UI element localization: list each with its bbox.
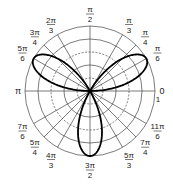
angle-label-a330: 11π6: [151, 122, 165, 141]
angle-label-a240: 4π3: [46, 151, 56, 170]
svg-text:6: 6: [20, 54, 25, 63]
svg-text:11π: 11π: [151, 122, 165, 131]
angle-label-a0: 0: [159, 86, 164, 96]
svg-text:2: 2: [88, 15, 93, 24]
polar-rose-diagram: 0π6π4π3π22π33π45π6π7π65π44π33π25π37π411π…: [0, 0, 173, 186]
grid-spoke: [90, 45, 136, 91]
angle-label-a30: π6: [154, 44, 162, 63]
svg-text:4: 4: [33, 38, 38, 47]
angle-label-a45: π4: [141, 28, 149, 47]
svg-text:4π: 4π: [46, 151, 56, 160]
svg-text:5π: 5π: [18, 44, 28, 53]
svg-text:4: 4: [143, 148, 148, 157]
angle-label-a150: 5π6: [18, 44, 28, 63]
angle-label-a210: 7π6: [18, 122, 28, 141]
svg-text:7π: 7π: [140, 138, 150, 147]
svg-text:6: 6: [20, 132, 25, 141]
svg-text:π: π: [87, 5, 93, 14]
grid-spoke: [44, 91, 90, 137]
svg-text:π: π: [155, 44, 161, 53]
angle-label-a60: π3: [125, 16, 133, 35]
angle-label-a315: 7π4: [140, 138, 150, 157]
angle-label-a90: π2: [86, 5, 94, 24]
grid-spoke: [34, 91, 90, 124]
svg-text:2π: 2π: [46, 16, 56, 25]
grid-spoke: [90, 91, 136, 137]
svg-text:π: π: [126, 16, 132, 25]
svg-text:2: 2: [88, 171, 93, 180]
radial-label: 1: [156, 95, 161, 104]
svg-text:4: 4: [33, 148, 38, 157]
angle-label-a225: 5π4: [30, 138, 40, 157]
angle-label-a180: π: [15, 86, 21, 96]
svg-text:π: π: [142, 28, 148, 37]
svg-text:3: 3: [127, 161, 132, 170]
angle-label-a300: 5π3: [124, 151, 134, 170]
svg-text:3: 3: [127, 26, 132, 35]
svg-text:3: 3: [49, 26, 54, 35]
svg-text:6: 6: [155, 132, 160, 141]
svg-text:5π: 5π: [124, 151, 134, 160]
svg-text:5π: 5π: [30, 138, 40, 147]
svg-text:3: 3: [49, 161, 54, 170]
angle-label-a135: 3π4: [30, 28, 40, 47]
svg-text:3π: 3π: [85, 161, 95, 170]
grid-spoke: [90, 91, 146, 124]
svg-text:3π: 3π: [30, 28, 40, 37]
angle-label-a120: 2π3: [46, 16, 56, 35]
svg-text:7π: 7π: [18, 122, 28, 131]
angle-label-a270: 3π2: [85, 161, 95, 180]
svg-text:4: 4: [143, 38, 148, 47]
grid-spoke: [44, 45, 90, 91]
svg-text:6: 6: [155, 54, 160, 63]
